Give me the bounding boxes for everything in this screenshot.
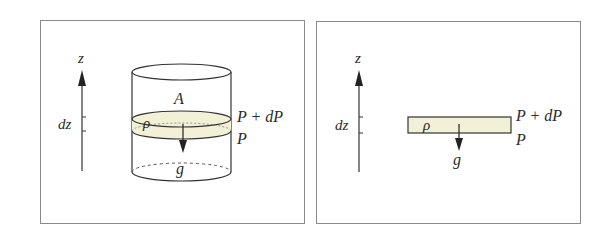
- bottom-pressure-label: P: [515, 131, 526, 148]
- dz-label: dz: [58, 116, 72, 132]
- cylinder: A ρ g: [132, 64, 231, 181]
- top-pressure-label: P + dP: [515, 107, 562, 124]
- z-axis-arrowhead-icon: [355, 70, 363, 86]
- density-label: ρ: [422, 117, 430, 133]
- dz-label: dz: [335, 117, 349, 133]
- area-label: A: [173, 90, 184, 107]
- z-axis-label: z: [77, 50, 84, 66]
- diagram-canvas: z dz A ρ g P: [0, 0, 611, 240]
- cylinder-top: [132, 64, 231, 80]
- gravity-arrowhead-icon: [455, 138, 463, 151]
- top-pressure-label: P + dP: [236, 108, 283, 125]
- z-axis: z dz: [335, 50, 363, 172]
- z-axis: z dz: [58, 50, 86, 171]
- cylinder-panel: z dz A ρ g P: [41, 21, 305, 224]
- gravity-label: g: [453, 151, 461, 169]
- gravity-arrowhead-icon: [179, 140, 187, 153]
- gravity-label: g: [176, 160, 184, 178]
- slab-panel: z dz ρ g P + dP P: [317, 22, 581, 224]
- z-axis-label: z: [354, 50, 361, 66]
- z-axis-arrowhead-icon: [78, 70, 86, 86]
- density-label: ρ: [142, 115, 150, 131]
- bottom-pressure-label: P: [236, 130, 247, 147]
